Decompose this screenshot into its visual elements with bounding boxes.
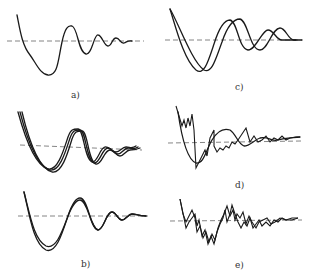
response-curve bbox=[17, 15, 132, 75]
panel-label-c: c) bbox=[235, 82, 244, 92]
noisy-response-curve bbox=[176, 106, 300, 168]
noisy-response-curve-1 bbox=[180, 199, 298, 244]
response-curve-1 bbox=[24, 192, 146, 247]
panel-d: d) bbox=[168, 106, 302, 190]
response-curve-2 bbox=[24, 192, 146, 251]
response-curve-3 bbox=[18, 112, 136, 169]
panel-a: a) bbox=[7, 15, 144, 100]
panel-label-e: e) bbox=[235, 260, 244, 270]
damped-oscillation-figure: a) c) b) d) e) bbox=[0, 0, 314, 277]
panel-b-bottom: b) bbox=[18, 192, 148, 269]
panel-label-a: a) bbox=[71, 90, 80, 100]
panel-b-top bbox=[18, 112, 142, 172]
reference-line bbox=[168, 141, 302, 143]
panel-e: e) bbox=[170, 199, 302, 270]
panel-c: c) bbox=[165, 9, 302, 92]
panel-label-b: b) bbox=[81, 259, 90, 269]
panel-label-d: d) bbox=[235, 180, 244, 190]
